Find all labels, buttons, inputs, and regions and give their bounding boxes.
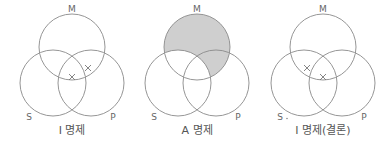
x-mark-icon — [69, 74, 75, 80]
circle-s — [271, 50, 337, 116]
circle-p — [58, 50, 124, 116]
circle-p — [309, 50, 375, 116]
label-p: P — [361, 112, 367, 122]
label-m: M — [193, 4, 201, 14]
circle-m — [290, 14, 356, 80]
label-m: M — [319, 4, 327, 14]
circle-s — [20, 50, 86, 116]
caption: I 명제(결론) — [295, 124, 350, 137]
label-m: M — [68, 4, 76, 14]
x-mark-icon — [320, 74, 326, 80]
label-p: P — [110, 112, 116, 122]
x-mark-icon — [304, 65, 310, 71]
caption: A 명제 — [181, 124, 212, 137]
panel-i-conclusion: MSPI 명제(결론) — [271, 4, 375, 137]
label-s: S — [151, 112, 157, 122]
circle-m — [39, 14, 105, 80]
caption: I 명제 — [59, 124, 86, 137]
label-s: S — [277, 112, 283, 122]
label-p: P — [235, 112, 241, 122]
panel-a: MSPA 명제 — [145, 4, 249, 137]
label-s: S — [26, 112, 32, 122]
panel-i: MSPI 명제 — [20, 4, 124, 137]
venn-diagrams: MSPI 명제MSPA 명제MSPI 명제(결론) — [0, 0, 392, 153]
dot-mark — [286, 118, 288, 120]
x-mark-icon — [85, 65, 91, 71]
